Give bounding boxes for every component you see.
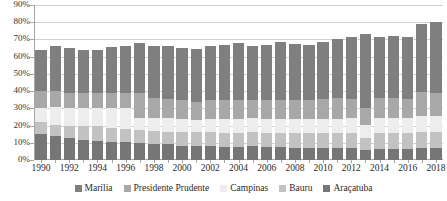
bar-segment — [35, 122, 46, 134]
x-axis-tick-mark — [394, 160, 395, 163]
bar-segment — [50, 125, 61, 136]
bar-segment — [247, 146, 258, 160]
y-axis-tick-label: 30% — [0, 103, 30, 112]
bar-segment — [106, 142, 117, 160]
bar-segment — [205, 46, 216, 100]
bar-segment — [374, 37, 385, 98]
x-axis-tick-mark — [281, 160, 282, 163]
bar-segment — [247, 118, 258, 132]
bar-segment — [402, 37, 413, 99]
bar-segment — [233, 43, 244, 100]
bar-2017 — [416, 24, 427, 160]
bar-segment — [176, 146, 187, 160]
bar-segment — [205, 132, 216, 146]
bar-segment — [134, 143, 145, 160]
bar-segment — [430, 93, 441, 116]
y-axis-tick-label: 0% — [0, 155, 30, 164]
x-axis-tick-mark — [337, 160, 338, 163]
bar-segment — [50, 91, 61, 107]
bar-segment — [261, 119, 272, 133]
bar-segment — [92, 50, 103, 93]
bar-1993 — [78, 50, 89, 160]
bar-segment — [388, 98, 399, 118]
y-axis-tick-label: 10% — [0, 138, 30, 147]
bar-2015 — [388, 36, 399, 160]
bar-segment — [247, 132, 258, 146]
bar-segment — [402, 118, 413, 133]
bar-2006 — [261, 45, 272, 160]
legend-label: Araçatuba — [333, 183, 372, 193]
bar-segment — [134, 118, 145, 130]
legend-item-presidente-prudente[interactable]: Presidente Prudente — [124, 183, 210, 193]
legend-swatch-icon — [220, 185, 227, 192]
bar-segment — [162, 46, 173, 99]
bar-2007 — [275, 42, 286, 160]
legend-label: Presidente Prudente — [134, 183, 210, 193]
bar-segment — [148, 98, 159, 118]
bar-segment — [402, 99, 413, 118]
bar-segment — [303, 100, 314, 119]
legend-swatch-icon — [279, 185, 286, 192]
legend-item-marília[interactable]: Marília — [75, 183, 113, 193]
y-axis-tick-mark — [30, 160, 34, 161]
bar-segment — [332, 98, 343, 119]
bar-segment — [303, 45, 314, 100]
x-axis-tick-label: 2006 — [257, 163, 276, 173]
bar-segment — [430, 22, 441, 93]
legend-label: Campinas — [230, 183, 268, 193]
bar-segment — [120, 142, 131, 160]
x-axis-tick-mark — [196, 160, 197, 163]
bar-segment — [360, 34, 371, 108]
x-axis-tick-label: 1990 — [32, 163, 51, 173]
bar-segment — [78, 50, 89, 93]
bar-1997 — [134, 43, 145, 160]
bar-segment — [219, 45, 230, 100]
bar-segment — [261, 45, 272, 100]
bar-segment — [233, 133, 244, 147]
x-axis-tick-label: 1992 — [60, 163, 79, 173]
bar-segment — [50, 136, 61, 160]
bar-segment — [92, 141, 103, 160]
bar-segment — [416, 148, 427, 160]
bar-segment — [64, 126, 75, 139]
bar-2003 — [219, 45, 230, 160]
y-axis-tick-label: 90% — [0, 0, 30, 9]
bar-segment — [289, 100, 300, 119]
bar-segment — [374, 149, 385, 160]
bar-segment — [416, 24, 427, 92]
bar-segment — [162, 118, 173, 132]
x-axis-tick-mark — [83, 160, 84, 163]
legend-item-campinas[interactable]: Campinas — [220, 183, 268, 193]
bar-segment — [374, 133, 385, 149]
legend-swatch-icon — [124, 185, 131, 192]
bar-segment — [148, 46, 159, 98]
bar-segment — [106, 93, 117, 109]
x-axis-tick-label: 2014 — [370, 163, 389, 173]
x-axis-tick-label: 2004 — [229, 163, 248, 173]
bar-segment — [205, 100, 216, 118]
bar-1999 — [162, 46, 173, 160]
bar-segment — [92, 126, 103, 140]
bar-segment — [346, 37, 357, 99]
bar-segment — [64, 93, 75, 109]
bar-segment — [303, 148, 314, 160]
bar-segment — [360, 150, 371, 160]
bar-segment — [50, 46, 61, 91]
bar-2009 — [303, 45, 314, 160]
x-axis-tick-label: 2016 — [398, 163, 417, 173]
legend-item-bauru[interactable]: Bauru — [279, 183, 312, 193]
bar-segment — [78, 126, 89, 141]
bar-segment — [191, 120, 202, 133]
bar-segment — [78, 140, 89, 160]
bar-segment — [289, 133, 300, 148]
x-axis-tick-label: 1998 — [144, 163, 163, 173]
x-axis-tick-label: 2018 — [426, 163, 445, 173]
bar-segment — [176, 119, 187, 132]
legend-item-araçatuba[interactable]: Araçatuba — [323, 183, 372, 193]
x-axis-tick-label: 2002 — [201, 163, 220, 173]
bar-segment — [275, 42, 286, 100]
bar-segment — [134, 43, 145, 93]
bar-segment — [134, 93, 145, 118]
bar-1990 — [35, 50, 46, 160]
bar-segment — [176, 48, 187, 100]
